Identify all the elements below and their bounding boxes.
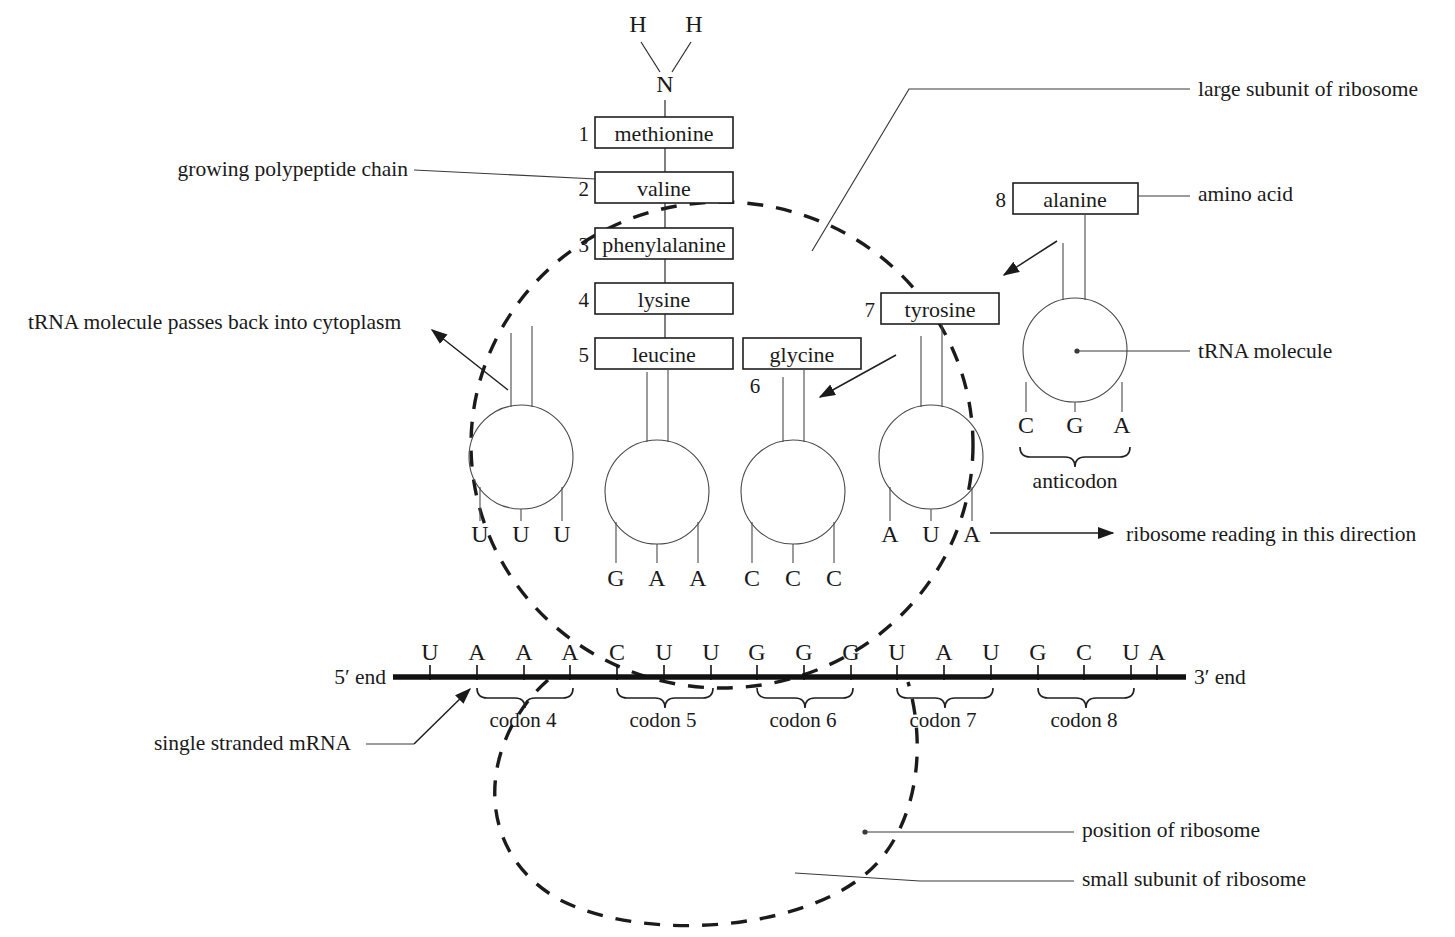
- mrna-strand: 5′ end 3′ end: [334, 639, 1246, 732]
- aa-label-tyrosine: tyrosine: [905, 297, 976, 322]
- amino-terminus: H H N: [629, 11, 702, 117]
- arrow-trna-entering: [1004, 241, 1057, 275]
- diagram-canvas: H H N 1 methionine 2 valine 3 pheny: [0, 0, 1455, 937]
- anticodon-base: U: [471, 521, 488, 547]
- aa-label-leucine: leucine: [632, 342, 696, 367]
- mrna-base: U: [982, 639, 999, 665]
- growing-polypeptide-chain: 1 methionine 2 valine 3 phenylalanine 4 …: [579, 117, 734, 369]
- mrna-base: U: [655, 639, 672, 665]
- anticodon-base: C: [826, 565, 842, 591]
- callout-single-stranded-mrna: single stranded mRNA: [154, 689, 470, 755]
- mrna-base: U: [421, 639, 438, 665]
- callout-position-of-ribosome: position of ribosome: [862, 818, 1260, 842]
- mrna-5-prime-label: 5′ end: [334, 665, 386, 689]
- aa-number-1: 1: [579, 122, 590, 146]
- aa-number-7: 7: [865, 298, 876, 322]
- anticodon-base: U: [512, 521, 529, 547]
- aa-label-glycine: glycine: [770, 342, 835, 367]
- mrna-base: A: [1148, 639, 1166, 665]
- mrna-base: U: [702, 639, 719, 665]
- anticodon-base: A: [648, 565, 666, 591]
- label-small-subunit: small subunit of ribosome: [1082, 867, 1306, 891]
- trna-exiting[interactable]: U U U: [469, 326, 573, 547]
- anticodon-base: A: [689, 565, 707, 591]
- mrna-base: U: [1122, 639, 1139, 665]
- label-reading-direction: ribosome reading in this direction: [1126, 522, 1416, 546]
- small-subunit-outline: [495, 680, 917, 926]
- aa-label-alanine: alanine: [1043, 187, 1107, 212]
- incoming-glycine: glycine 6: [743, 338, 861, 398]
- anticodon-base: G: [607, 565, 624, 591]
- aa-label-valine: valine: [637, 176, 691, 201]
- aa-number-6: 6: [750, 374, 761, 398]
- mrna-base: A: [468, 639, 486, 665]
- mrna-base: A: [515, 639, 533, 665]
- mrna-base: G: [1029, 639, 1046, 665]
- trna-leucine[interactable]: G A A: [605, 369, 709, 591]
- label-amino-acid: amino acid: [1198, 182, 1293, 206]
- trna-glycine[interactable]: C C C: [741, 369, 845, 591]
- callout-reading-direction: ribosome reading in this direction: [990, 522, 1416, 546]
- mrna-base: U: [888, 639, 905, 665]
- anticodon-label: anticodon: [1033, 469, 1118, 493]
- codon-label: codon 5: [629, 708, 696, 732]
- incoming-alanine: alanine 8: [996, 183, 1139, 214]
- aa-label-phenylalanine: phenylalanine: [602, 232, 725, 257]
- aa-number-5: 5: [579, 343, 590, 367]
- mrna-base: G: [842, 639, 859, 665]
- aa-label-methionine: methionine: [615, 121, 714, 146]
- mrna-base: G: [748, 639, 765, 665]
- anticodon-base: U: [922, 521, 939, 547]
- mrna-base: C: [609, 639, 625, 665]
- incoming-tyrosine: tyrosine 7: [865, 293, 1000, 324]
- anticodon-base: A: [963, 521, 981, 547]
- callout-amino-acid: amino acid: [1138, 182, 1293, 206]
- atom-h-right: H: [685, 11, 702, 37]
- anticodon-base: C: [785, 565, 801, 591]
- mrna-base: G: [795, 639, 812, 665]
- anticodon-base: C: [744, 565, 760, 591]
- atom-h-left: H: [629, 11, 646, 37]
- aa-number-2: 2: [579, 177, 590, 201]
- aa-number-4: 4: [579, 288, 590, 312]
- codon-label: codon 8: [1050, 708, 1117, 732]
- anticodon-base: C: [1018, 412, 1034, 438]
- aa-label-lysine: lysine: [638, 287, 691, 312]
- anticodon-base: G: [1066, 412, 1083, 438]
- label-single-stranded-mrna: single stranded mRNA: [154, 731, 352, 755]
- anticodon-base: A: [1113, 412, 1131, 438]
- codon-label: codon 6: [769, 708, 836, 732]
- anticodon-base: A: [881, 521, 899, 547]
- mrna-bases: U A A A C U U G G G U A U G C U A: [421, 639, 1166, 665]
- codon-label: codon 7: [909, 708, 976, 732]
- label-trna-molecule: tRNA molecule: [1198, 339, 1332, 363]
- label-growing-chain: growing polypeptide chain: [178, 157, 409, 181]
- label-large-subunit: large subunit of ribosome: [1198, 77, 1418, 101]
- label-trna-back: tRNA molecule passes back into cytoplasm: [28, 310, 401, 334]
- mrna-base: C: [1076, 639, 1092, 665]
- callout-trna-molecule: tRNA molecule: [1074, 339, 1332, 363]
- codon-braces: codon 4 codon 5 codon 6 codon 7 codon 8: [477, 688, 1134, 732]
- callout-large-subunit: large subunit of ribosome: [812, 77, 1418, 251]
- trna-tyrosine[interactable]: A U A: [879, 324, 983, 547]
- atom-n: N: [656, 71, 673, 97]
- aa-number-3: 3: [579, 233, 590, 257]
- label-position-of-ribosome: position of ribosome: [1082, 818, 1260, 842]
- callout-trna-exits: tRNA molecule passes back into cytoplasm: [28, 310, 508, 390]
- aa-number-8: 8: [996, 188, 1007, 212]
- callout-growing-chain: growing polypeptide chain: [178, 157, 596, 181]
- codon-label: codon 4: [489, 708, 557, 732]
- mrna-3-prime-label: 3′ end: [1194, 665, 1246, 689]
- anticodon-base: U: [553, 521, 570, 547]
- translation-diagram: H H N 1 methionine 2 valine 3 pheny: [0, 0, 1455, 937]
- mrna-base: A: [561, 639, 579, 665]
- large-subunit-outline: [471, 202, 973, 688]
- mrna-base: A: [935, 639, 953, 665]
